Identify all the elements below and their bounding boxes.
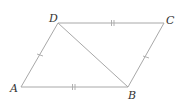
vertex-label-d: D [48,12,58,25]
diagonal-db [58,23,128,87]
vertex-label-b: B [127,89,136,102]
single-tick-bc [143,56,149,58]
segment-bc [128,23,164,87]
vertex-label-c: C [166,14,175,27]
parallelogram-diagram: A B C D [0,0,186,111]
vertex-label-a: A [9,82,18,95]
